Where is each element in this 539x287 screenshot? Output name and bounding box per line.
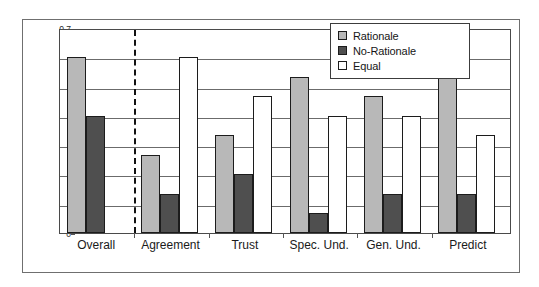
bar-equal-agreement xyxy=(179,57,198,233)
bar-no-rationale-predict xyxy=(457,194,476,233)
bar-equal-trust xyxy=(253,96,272,233)
legend-swatch-icon xyxy=(338,46,347,55)
legend-label: Equal xyxy=(353,60,381,72)
legend-swatch-icon xyxy=(338,61,347,70)
x-label-agreement: Agreement xyxy=(141,238,200,252)
legend-item: Equal xyxy=(338,58,463,73)
bar-equal-gen-und- xyxy=(402,116,421,233)
legend-item: No-Rationale xyxy=(338,43,463,58)
chart-figure: % of participants 00.10.20.30.40.50.60.7… xyxy=(22,19,520,273)
bar-no-rationale-gen-und- xyxy=(383,194,402,233)
legend-label: Rationale xyxy=(353,30,399,42)
x-label-trust: Trust xyxy=(231,238,258,252)
bar-equal-spec-und- xyxy=(328,116,347,233)
bar-no-rationale-trust xyxy=(234,174,253,233)
bar-no-rationale-overall xyxy=(86,116,105,233)
bar-rationale-predict xyxy=(438,77,457,233)
bar-rationale-spec-und- xyxy=(290,77,309,233)
x-label-gen-und-: Gen. Und. xyxy=(366,238,421,252)
x-axis-category-labels: OverallAgreementTrustSpec. Und.Gen. Und.… xyxy=(59,238,511,258)
bar-rationale-trust xyxy=(215,135,234,233)
bar-rationale-overall xyxy=(67,57,86,233)
x-label-overall: Overall xyxy=(77,238,115,252)
bar-rationale-agreement xyxy=(141,155,160,233)
bar-equal-predict xyxy=(476,135,495,233)
legend-label: No-Rationale xyxy=(353,45,416,57)
legend-swatch-icon xyxy=(338,31,347,40)
x-label-predict: Predict xyxy=(449,238,486,252)
bar-rationale-gen-und- xyxy=(364,96,383,233)
group-divider-dashed-line xyxy=(134,30,136,233)
x-label-spec-und-: Spec. Und. xyxy=(289,238,348,252)
bar-no-rationale-spec-und- xyxy=(309,213,328,233)
bar-no-rationale-agreement xyxy=(160,194,179,233)
chart-legend: RationaleNo-RationaleEqual xyxy=(330,23,470,79)
y-tick-mark xyxy=(71,234,75,235)
legend-item: Rationale xyxy=(338,28,463,43)
